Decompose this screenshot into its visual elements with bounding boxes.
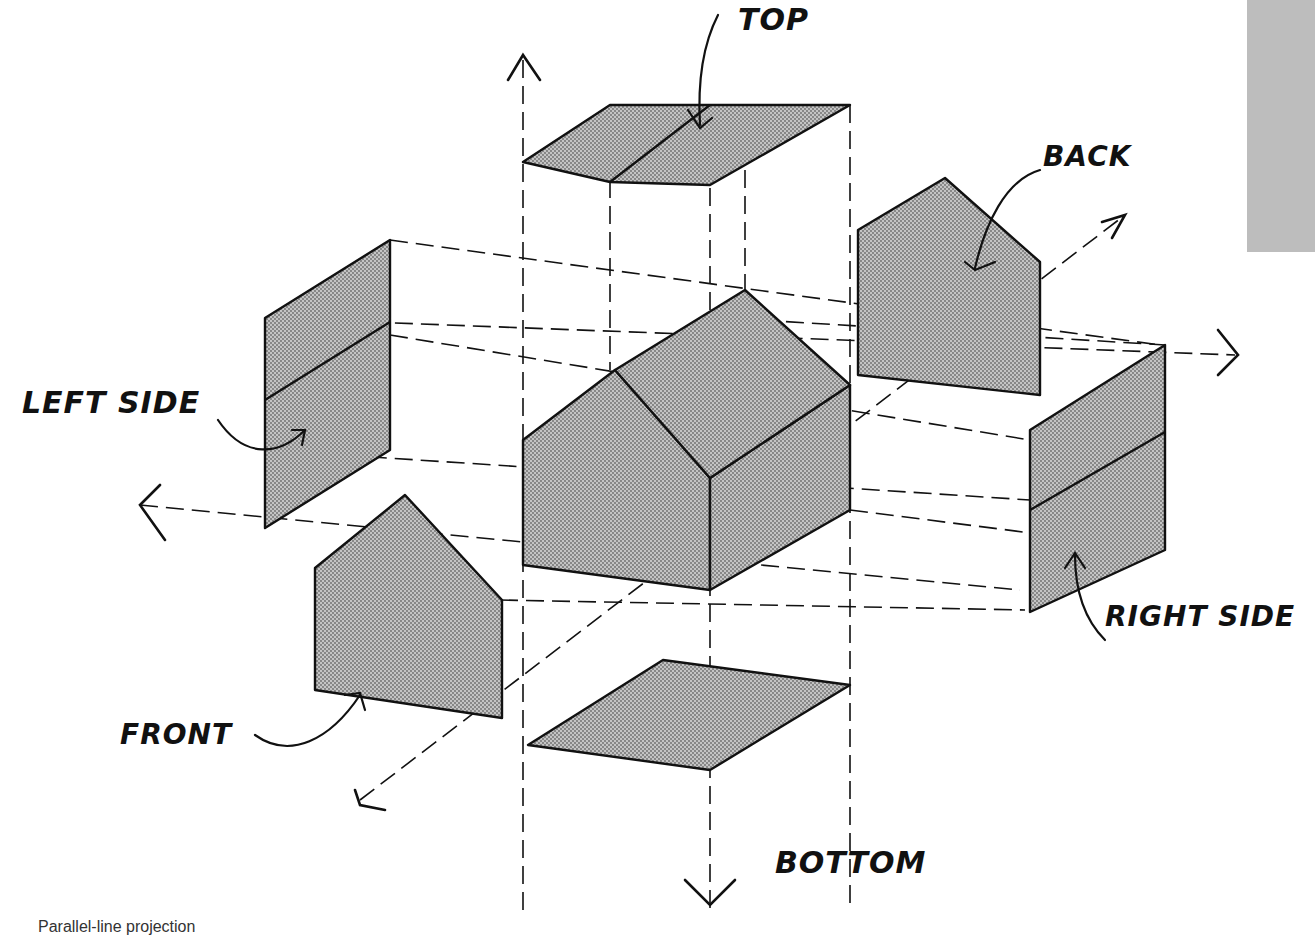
bottom-face <box>528 660 850 770</box>
label-bottom: BOTTOM <box>775 845 926 880</box>
label-right-side: RIGHT SIDE <box>1105 600 1295 633</box>
top-face <box>523 105 850 185</box>
figure-caption: Parallel-line projection <box>38 918 195 936</box>
label-left-side: LEFT SIDE <box>22 385 200 420</box>
back-face <box>858 178 1040 395</box>
left-side-face <box>265 240 390 528</box>
label-front: FRONT <box>120 718 232 751</box>
right-side-face <box>1030 345 1165 612</box>
label-back: BACK <box>1043 140 1131 173</box>
label-top: TOP <box>738 2 809 37</box>
front-face <box>315 495 502 718</box>
